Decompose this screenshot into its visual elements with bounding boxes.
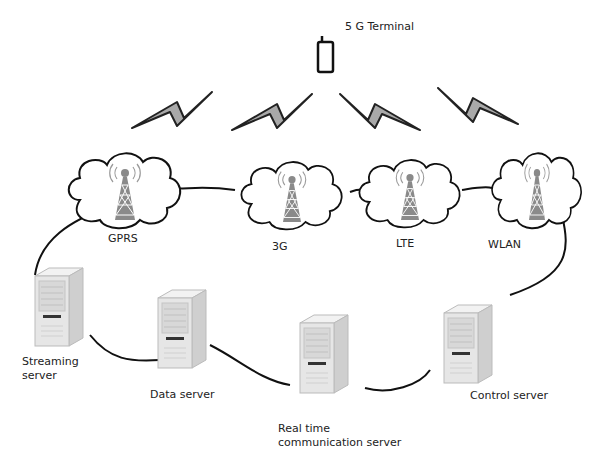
link-rtc-control bbox=[365, 370, 430, 390]
cloud-3g bbox=[241, 162, 341, 229]
server-label-control: Control server bbox=[470, 389, 548, 403]
signal-bolt-icon bbox=[232, 94, 312, 130]
server-streaming bbox=[35, 268, 83, 346]
server-rtc bbox=[300, 315, 348, 393]
link-streaming-data bbox=[90, 335, 160, 361]
network-label-3g: 3G bbox=[272, 240, 288, 254]
link-lte-wlan bbox=[462, 187, 492, 190]
cloud-lte bbox=[359, 160, 459, 227]
terminal-label: 5 G Terminal bbox=[345, 20, 414, 34]
cloud-gprs bbox=[69, 153, 180, 228]
server-label-streaming: Streaming server bbox=[22, 355, 82, 383]
server-data bbox=[158, 290, 206, 368]
network-label-gprs: GPRS bbox=[108, 232, 138, 246]
phone-icon bbox=[318, 36, 333, 72]
signal-bolt-icon bbox=[132, 92, 212, 128]
network-label-lte: LTE bbox=[396, 237, 414, 251]
network-label-wlan: WLAN bbox=[488, 238, 521, 252]
cloud-wlan bbox=[492, 153, 581, 228]
signal-bolt-icon bbox=[438, 88, 518, 124]
link-data-rtc bbox=[210, 345, 290, 385]
server-label-data: Data server bbox=[150, 388, 215, 402]
signal-bolt-icon bbox=[340, 94, 420, 130]
server-label-rtc: Real time communication server bbox=[278, 422, 418, 450]
server-control bbox=[444, 305, 492, 383]
